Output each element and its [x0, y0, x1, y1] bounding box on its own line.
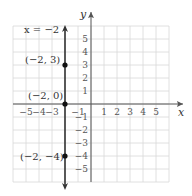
- point-label-neg2-neg4: (−2, −4): [20, 151, 64, 162]
- svg-text:1: 1: [82, 86, 88, 96]
- point-label-neg2-3: (−2, 3): [25, 54, 60, 65]
- svg-text:−4: −4: [75, 151, 89, 161]
- svg-text:4: 4: [82, 47, 88, 57]
- svg-text:−3: −3: [45, 107, 59, 117]
- equation-label: x = −2: [24, 24, 59, 35]
- point-label-neg2-0: (−2, 0): [28, 90, 63, 101]
- svg-text:−2: −2: [75, 125, 88, 135]
- point-labels: x = −2 (−2, 3) (−2, 0) (−2, −4) x y: [20, 8, 185, 162]
- svg-text:−5: −5: [19, 107, 33, 117]
- x-axis-label: x: [178, 106, 185, 119]
- svg-text:5: 5: [153, 107, 159, 117]
- svg-text:−1: −1: [75, 112, 88, 122]
- svg-text:−3: −3: [75, 138, 89, 148]
- vertical-line-x-neg2: [62, 25, 68, 190]
- y-axis-label: y: [79, 8, 87, 21]
- svg-text:3: 3: [82, 60, 88, 70]
- svg-text:−5: −5: [75, 164, 89, 174]
- coordinate-plane: −5−4−3−11234554321−1−2−3−4−5 x = −2 (−2,…: [0, 0, 192, 196]
- svg-text:1: 1: [101, 107, 107, 117]
- svg-text:−4: −4: [32, 107, 46, 117]
- svg-text:5: 5: [82, 34, 88, 44]
- svg-text:4: 4: [140, 107, 146, 117]
- svg-text:2: 2: [82, 73, 88, 83]
- svg-text:2: 2: [114, 107, 120, 117]
- svg-text:3: 3: [127, 107, 133, 117]
